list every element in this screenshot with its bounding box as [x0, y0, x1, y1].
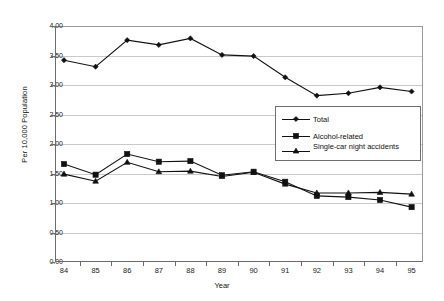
x-tick-label: 88 — [178, 266, 202, 275]
x-tick-label: 86 — [115, 266, 139, 275]
x-tick-mark — [175, 262, 176, 266]
line-chart: 0.000.501.001.502.002.503.003.504.00 848… — [0, 0, 444, 301]
legend-label: Total — [310, 115, 329, 124]
x-tick-label: 93 — [336, 266, 360, 275]
legend-item-triangle[interactable]: Single-car night accidents — [282, 144, 399, 158]
chart-legend: TotalAlcohol-relatedSingle-car night acc… — [275, 106, 421, 161]
y-axis-label: Per 10,000 Population — [20, 55, 29, 195]
x-tick-label: 95 — [400, 266, 424, 275]
x-tick-label: 92 — [305, 266, 329, 275]
x-tick-label: 84 — [52, 266, 76, 275]
legend-diamond-icon — [282, 113, 310, 125]
x-axis-label: Year — [0, 281, 444, 290]
x-tick-label: 94 — [368, 266, 392, 275]
x-tick-mark — [238, 262, 239, 266]
legend-item-diamond[interactable]: Total — [282, 112, 329, 126]
x-tick-label: 91 — [273, 266, 297, 275]
x-tick-label: 90 — [242, 266, 266, 275]
x-tick-mark — [111, 262, 112, 266]
x-tick-label: 89 — [210, 266, 234, 275]
diamond-marker — [293, 116, 298, 121]
x-tick-mark — [301, 262, 302, 266]
x-tick-mark — [396, 262, 397, 266]
x-tick-mark — [364, 262, 365, 266]
x-tick-label: 87 — [147, 266, 171, 275]
plot-frame-right-edge — [422, 26, 423, 262]
x-tick-mark — [206, 262, 207, 266]
x-tick-label: 85 — [84, 266, 108, 275]
legend-triangle-icon — [282, 145, 310, 157]
x-tick-mark — [80, 262, 81, 266]
legend-square-icon — [282, 130, 310, 142]
legend-label: Single-car night accidents — [310, 142, 399, 151]
square-marker — [293, 133, 298, 138]
x-tick-mark — [333, 262, 334, 266]
triangle-marker — [293, 148, 299, 153]
x-tick-mark — [269, 262, 270, 266]
y-tick-mark — [51, 262, 55, 263]
x-tick-mark — [143, 262, 144, 266]
legend-label: Alcohol-related — [310, 132, 363, 141]
